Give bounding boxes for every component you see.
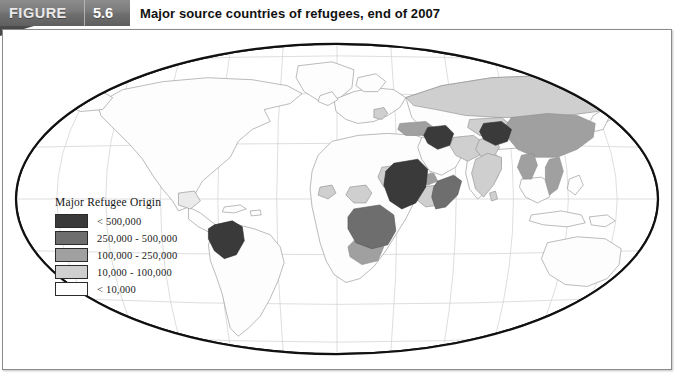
map-frame: Major Refugee Origin < 500,000 250,000 -…: [2, 29, 672, 370]
legend-swatch-10k-100k: [55, 265, 88, 279]
figure-tag-divider: [84, 0, 85, 26]
legend-item: 100,000 - 250,000: [55, 247, 177, 263]
legend-item: < 500,000: [55, 213, 177, 229]
legend-label-10k-100k: 10,000 - 100,000: [97, 267, 172, 278]
legend-item: 10,000 - 100,000: [55, 264, 177, 280]
map-legend: Major Refugee Origin < 500,000 250,000 -…: [55, 196, 177, 298]
legend-title: Major Refugee Origin: [55, 196, 177, 208]
legend-label-250k-500k: 250,000 - 500,000: [97, 233, 177, 244]
legend-label-100k-250k: 100,000 - 250,000: [97, 250, 177, 261]
legend-swatch-under-500k: [55, 214, 88, 228]
legend-item: 250,000 - 500,000: [55, 230, 177, 246]
legend-swatch-under-10k: [55, 282, 88, 296]
figure-container: FIGURE 5.6 Major source countries of ref…: [0, 0, 676, 373]
legend-swatch-100k-250k: [55, 248, 88, 262]
legend-swatch-250k-500k: [55, 231, 88, 245]
figure-tag-banner: FIGURE 5.6: [0, 0, 130, 26]
legend-item: < 10,000: [55, 281, 177, 297]
figure-number: 5.6: [85, 5, 113, 21]
figure-title: Major source countries of refugees, end …: [140, 0, 440, 26]
figure-header: FIGURE 5.6 Major source countries of ref…: [0, 0, 676, 26]
legend-label-under-10k: < 10,000: [97, 284, 136, 295]
figure-tag-label: FIGURE: [0, 5, 84, 21]
legend-label-under-500k: < 500,000: [97, 216, 141, 227]
